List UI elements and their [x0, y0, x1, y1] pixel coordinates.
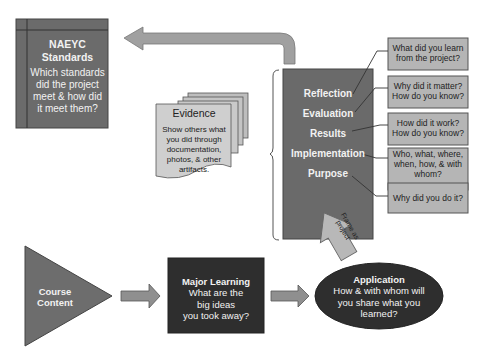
application-title: Application [319, 274, 439, 285]
stack-label-implementation: Implementation [283, 148, 373, 160]
evidence-line: Show others what [157, 125, 231, 135]
question-evaluation: Why did it matter? How do you know? [388, 81, 468, 101]
question-line: whom? [388, 169, 468, 179]
major-learning-line: What are the [168, 287, 264, 298]
naeyc-title-line: Standards [27, 51, 108, 64]
question-reflection: What did you learn from the project? [388, 43, 468, 63]
evidence-line: photos, & other [157, 155, 231, 165]
question-line: Why did you do it? [388, 193, 468, 203]
question-line: What did you learn [388, 43, 468, 53]
top-return-arrow [124, 27, 295, 64]
arrow-to-application [271, 285, 309, 307]
course-content-label: Course Content [25, 286, 85, 309]
application-label: Application How & with whom will you sha… [319, 274, 439, 320]
question-line: How do you know? [388, 91, 468, 101]
evidence-line: documentation, [157, 145, 231, 155]
stack-label-purpose: Purpose [283, 168, 373, 180]
question-line: from the project? [388, 53, 468, 63]
major-learning-line: big ideas [168, 299, 264, 310]
course-content-line: Course [25, 286, 85, 297]
stack-label-evaluation: Evaluation [283, 108, 373, 120]
major-learning-title: Major Learning [168, 276, 264, 287]
major-learning-label: Major Learning What are the big ideas yo… [168, 276, 264, 322]
major-learning-line: you took away? [168, 310, 264, 321]
naeyc-question-line: it meet them? [27, 103, 108, 115]
evidence-line: artifacts. [157, 165, 231, 175]
question-line: Why did it matter? [388, 81, 468, 91]
question-line: How do you know? [388, 128, 468, 138]
naeyc-question-line: did the project [27, 79, 108, 91]
question-line: when, how, & with [388, 159, 468, 169]
question-implementation: Who, what, where, when, how, & with whom… [388, 149, 468, 180]
naeyc-title-line: NAEYC [27, 38, 108, 51]
evidence-title: Evidence [157, 107, 231, 120]
brace [270, 70, 279, 240]
application-line: you share what you [319, 297, 439, 308]
application-line: learned? [319, 308, 439, 319]
course-content-line: Content [25, 297, 85, 308]
stack-label-reflection: Reflection [283, 88, 373, 100]
question-purpose: Why did you do it? [388, 193, 468, 203]
arrow-to-major-learning [121, 284, 160, 308]
naeyc-question: Which standards did the project meet & h… [27, 67, 108, 115]
evidence-line: you did through [157, 135, 231, 145]
evidence-description: Show others what you did through documen… [157, 125, 231, 175]
question-line: Who, what, where, [388, 149, 468, 159]
question-results: How did it work? How do you know? [388, 118, 468, 138]
naeyc-title: NAEYC Standards [27, 38, 108, 63]
question-line: How did it work? [388, 118, 468, 128]
application-line: How & with whom will [319, 285, 439, 296]
naeyc-question-line: meet & how did [27, 91, 108, 103]
naeyc-question-line: Which standards [27, 67, 108, 79]
stack-label-results: Results [283, 128, 373, 140]
